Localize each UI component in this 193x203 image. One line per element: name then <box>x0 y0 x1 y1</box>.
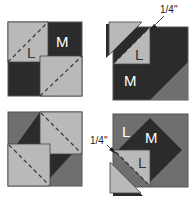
panel-step-4: 1/4" L M L <box>90 114 188 196</box>
panel2-seam-allowance-label: 1/4" <box>160 4 178 15</box>
panel-step-2: 1/4" L M <box>106 4 188 100</box>
panel1-label-large: L <box>27 44 35 61</box>
panel4-label-large-top: L <box>122 123 130 140</box>
panel4-label-medium: M <box>145 129 158 146</box>
panel-step-1: M L <box>8 22 82 96</box>
panel2-label-large: L <box>135 46 143 63</box>
panel1-label-medium: M <box>56 33 69 50</box>
panel2-label-medium: M <box>124 72 137 89</box>
panel4-label-large-bottom: L <box>138 154 146 171</box>
panel4-seam-allowance-label: 1/4" <box>90 135 108 146</box>
quilt-block-diagram: M L 1/4" L M <box>0 0 193 203</box>
panel-step-3 <box>8 112 82 186</box>
